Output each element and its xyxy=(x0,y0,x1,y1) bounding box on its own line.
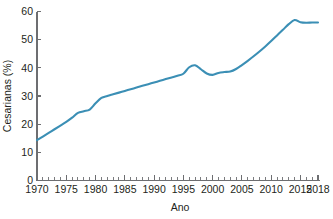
y-axis-ticks xyxy=(37,12,41,181)
chart-container: 0102030405060 Cesarianas (%) 19701975198… xyxy=(0,0,333,219)
y-tick-label: 60 xyxy=(21,5,33,17)
y-tick-label: 30 xyxy=(21,90,33,102)
x-axis-group: 1970197519801985199019952000200520102015… xyxy=(25,175,330,213)
x-axis-minor-ticks xyxy=(37,177,318,181)
cesarianas-line-chart: 0102030405060 Cesarianas (%) 19701975198… xyxy=(0,0,333,219)
x-tick-label: 1980 xyxy=(84,183,108,195)
y-tick-label: 20 xyxy=(21,118,33,130)
x-tick-label: 1985 xyxy=(113,183,137,195)
series-line-cesarianas xyxy=(37,20,318,140)
x-tick-label: 1975 xyxy=(55,183,79,195)
x-tick-label: 1990 xyxy=(142,183,166,195)
x-axis-title: Ano xyxy=(171,201,190,213)
x-tick-label: 2010 xyxy=(259,183,283,195)
x-tick-label: 2005 xyxy=(230,183,254,195)
y-tick-label: 10 xyxy=(21,146,33,158)
data-series-group xyxy=(37,20,318,140)
x-tick-label: 1970 xyxy=(25,183,49,195)
x-axis-tick-labels: 1970197519801985199019952000200520102015… xyxy=(25,183,330,195)
x-tick-label: 1995 xyxy=(172,183,196,195)
y-tick-label: 50 xyxy=(21,33,33,45)
x-tick-label: 2000 xyxy=(201,183,225,195)
y-axis-title: Cesarianas (%) xyxy=(1,60,13,132)
y-tick-label: 40 xyxy=(21,62,33,74)
y-axis-tick-labels: 0102030405060 xyxy=(21,5,33,186)
y-axis-group: 0102030405060 Cesarianas (%) xyxy=(1,5,41,186)
x-tick-label: 2018 xyxy=(306,183,330,195)
